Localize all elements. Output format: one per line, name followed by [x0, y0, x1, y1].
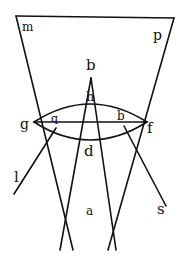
label-h: h — [86, 89, 95, 104]
s-ray-line — [124, 126, 166, 206]
label-f: f — [147, 119, 154, 137]
left-ray-line — [16, 16, 73, 250]
top-edge-line — [16, 16, 174, 18]
label-b: b — [86, 56, 96, 74]
lens-ray-diagram: m p b h g q b f d l s a — [0, 0, 182, 262]
label-b2: b — [117, 109, 125, 123]
label-m: m — [22, 20, 34, 34]
label-q: q — [51, 112, 58, 125]
l-ray-line — [14, 128, 56, 194]
label-l: l — [14, 168, 19, 186]
label-g: g — [20, 116, 29, 132]
label-d: d — [84, 142, 94, 160]
label-s: s — [157, 200, 165, 218]
label-a: a — [86, 204, 93, 218]
label-p: p — [153, 27, 162, 43]
